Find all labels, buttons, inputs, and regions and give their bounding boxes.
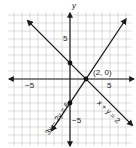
plot-point: [84, 77, 89, 82]
line-x-plus-y-eq-2: [28, 21, 133, 126]
axes: [9, 13, 134, 146]
coordinate-graph: [0, 0, 136, 148]
intersection-label: (2, 0): [93, 69, 112, 77]
x-tick-label-5: 5: [107, 82, 111, 90]
y-tick-label-5: 5: [63, 35, 67, 43]
y-tick-label-neg5: −5: [72, 117, 81, 125]
x-tick-label-neg5: −5: [25, 82, 34, 90]
y-axis-label: y: [72, 2, 76, 10]
plot-point: [68, 61, 73, 66]
